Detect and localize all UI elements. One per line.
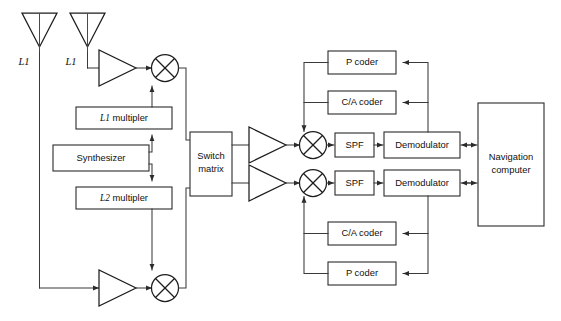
block-ca-coder-upper-label: C/A coder [341, 96, 382, 107]
block-spf-upper-label: SPF [345, 139, 364, 150]
block-ca-coder-lower-label: C/A coder [341, 227, 382, 238]
amplifier-lower-right [249, 165, 286, 201]
amplifier-upper-right [249, 127, 286, 163]
amplifier-lower-left [99, 270, 136, 306]
diagram-canvas: L1 L1 [0, 0, 561, 321]
wire-demod-lower-to-p-coder [403, 196, 428, 274]
block-switch-matrix-label-line2: matrix [198, 163, 224, 174]
block-l2-multiplier-label: L2 multipler [99, 192, 148, 203]
antenna-right [70, 13, 105, 52]
block-l1-multiplier-label: L1 multipler [99, 112, 148, 123]
wire-demod-upper-to-p-coder [403, 63, 428, 133]
mixer-lower-right [300, 170, 327, 197]
block-spf-lower-label: SPF [345, 177, 364, 188]
mixer-lower-left [152, 275, 179, 302]
wire-p-coder-upper-to-mixer [304, 63, 328, 132]
antenna-left [22, 13, 57, 52]
block-demodulator-upper-label: Demodulator [395, 139, 449, 150]
block-navigation-computer-label-line2: computer [491, 164, 530, 175]
antenna-left-label: L1 [17, 56, 29, 67]
wire-lower-mixer-to-switch [179, 188, 191, 288]
block-navigation-computer-label-line1: Navigation [489, 151, 533, 162]
mixer-upper-right [300, 132, 327, 159]
amplifier-upper-left [99, 50, 136, 86]
mixer-upper-left [152, 55, 179, 82]
antenna-right-label: L1 [64, 56, 76, 67]
block-switch-matrix-label-line1: Switch [197, 150, 225, 161]
block-p-coder-lower-label: P coder [346, 267, 378, 278]
wire-upper-mixer-to-switch [179, 68, 191, 140]
block-synthesizer-label: Synthesizer [77, 152, 126, 163]
block-demodulator-lower-label: Demodulator [395, 177, 449, 188]
block-p-coder-upper-label: P coder [346, 56, 378, 67]
gps-receiver-block-diagram: L1 L1 [0, 0, 561, 321]
wire-p-coder-lower-to-mixer [304, 197, 328, 274]
